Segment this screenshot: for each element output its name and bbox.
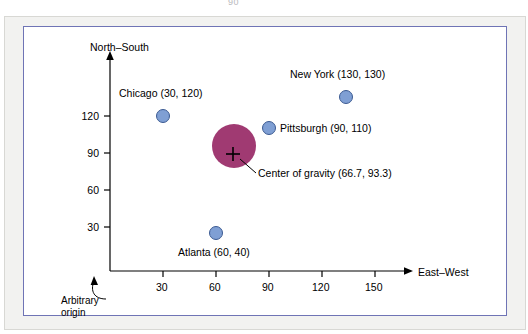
y-tick-label-90: 90: [77, 147, 99, 159]
origin-arrow-head: [91, 276, 98, 285]
page-ghost-text: 90: [228, 0, 239, 7]
point-center-of-gravity: [212, 124, 256, 168]
point-chicago: [157, 110, 170, 123]
y-tick-label-60: 60: [77, 184, 99, 196]
point-label-pittsburgh: Pittsburgh (90, 110): [280, 122, 371, 134]
point-new-york: [340, 91, 353, 104]
annotation-arbitrary-origin-line1: Arbitrary: [61, 295, 99, 307]
point-label-atlanta: Atlanta (60, 40): [178, 246, 250, 258]
point-label-center-of-gravity: Center of gravity (66.7, 93.3): [258, 167, 392, 179]
point-atlanta: [210, 227, 223, 240]
y-axis-title: North–South: [90, 41, 149, 53]
y-tick-label-30: 30: [77, 221, 99, 233]
annotation-arbitrary-origin: Arbitrary origin: [61, 295, 99, 318]
x-tick-label-60: 60: [209, 281, 221, 293]
x-axis-arrow: [404, 267, 413, 275]
scatter-chart: North–South East–West 30 60 90 120 30 60…: [24, 27, 506, 315]
y-tick-label-120: 120: [72, 110, 99, 122]
x-tick-label-90: 90: [262, 281, 274, 293]
x-tick-label-30: 30: [156, 281, 168, 293]
point-pittsburgh: [263, 122, 276, 135]
x-tick-label-120: 120: [312, 281, 330, 293]
x-axis-title: East–West: [418, 266, 469, 278]
x-tick-label-150: 150: [365, 281, 383, 293]
figure-frame: North–South East–West 30 60 90 120 30 60…: [23, 26, 507, 316]
figure-plate: North–South East–West 30 60 90 120 30 60…: [4, 16, 526, 330]
annotation-arbitrary-origin-line2: origin: [61, 307, 99, 319]
point-label-chicago: Chicago (30, 120): [119, 87, 202, 99]
point-label-new-york: New York (130, 130): [290, 68, 385, 80]
page-top-strip: 90: [0, 0, 528, 16]
page-root: 90: [0, 0, 528, 334]
